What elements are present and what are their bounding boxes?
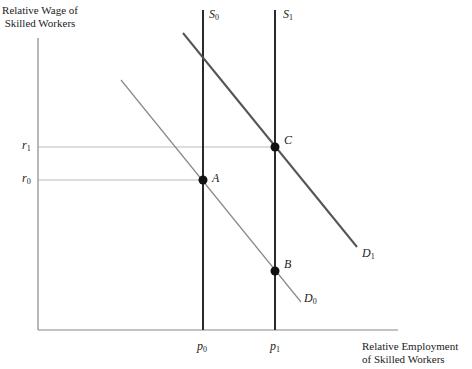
label-d1: D1 — [362, 247, 375, 263]
tick-p0: p0 — [197, 340, 207, 356]
tick-r1: r1 — [22, 139, 31, 155]
y-axis-title: Relative Wage of Skilled Workers — [0, 4, 80, 30]
label-s0: S0 — [209, 8, 219, 24]
label-point-b: B — [284, 258, 291, 271]
label-d0: D0 — [304, 292, 317, 308]
y-axis-title-line-2: Skilled Workers — [0, 17, 80, 30]
tick-p1: p1 — [270, 340, 280, 356]
label-point-c: C — [284, 134, 292, 147]
x-axis-title-line-2: of Skilled Workers — [362, 353, 458, 366]
demand-curve-d1 — [183, 33, 357, 247]
label-s1: S1 — [283, 8, 293, 24]
tick-r0: r0 — [22, 172, 31, 188]
x-axis-title: Relative Employment of Skilled Workers — [362, 340, 458, 366]
y-axis-title-line-1: Relative Wage of — [0, 4, 80, 17]
labor-market-diagram: Relative Wage of Skilled Workers Relativ… — [0, 0, 472, 369]
diagram-canvas — [0, 0, 472, 369]
x-axis-title-line-1: Relative Employment — [362, 340, 458, 353]
point-a — [199, 176, 208, 185]
point-b — [271, 267, 280, 276]
label-point-a: A — [212, 172, 219, 185]
point-c — [271, 143, 280, 152]
